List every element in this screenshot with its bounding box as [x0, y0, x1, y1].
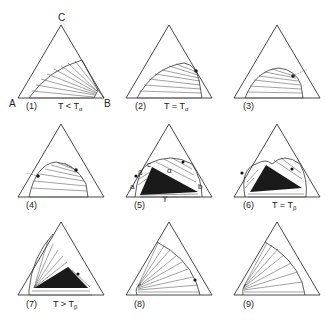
panel-8-diagram — [126, 222, 212, 295]
panel-8-label: (8) — [134, 299, 145, 309]
panel-5-label: (5) — [134, 200, 145, 210]
panel-2-diagram — [126, 25, 212, 98]
panel-2-condition: T = Tα — [164, 101, 188, 114]
panel-4-label: (4) — [26, 200, 37, 210]
panel-1-condition: T < Tα — [58, 101, 82, 114]
panel-7-label: (7) — [26, 299, 37, 309]
ternary-diagram-grid — [0, 0, 333, 322]
panel-9-label: (9) — [243, 299, 254, 309]
panel-4-diagram — [18, 124, 104, 197]
panel-9-diagram — [234, 222, 320, 295]
panel-7-diagram — [18, 222, 104, 295]
region-label-gamma: γ — [163, 193, 167, 203]
region-label-b: b — [198, 182, 202, 192]
region-label-alpha: α — [167, 166, 172, 176]
panel-6-label: (6) — [243, 200, 254, 210]
panel-1-diagram — [18, 25, 104, 98]
region-label-a: a — [130, 182, 134, 192]
vertex-label-b: B — [104, 99, 111, 109]
panel-1-label: (1) — [26, 101, 37, 111]
panel-6-condition: T = Tβ — [272, 200, 296, 213]
region-label-c: c — [147, 160, 151, 170]
region-label-beta: β — [138, 168, 143, 178]
panel-7-condition: T > Tβ — [53, 299, 77, 312]
vertex-label-a: A — [9, 99, 16, 109]
panel-6-diagram — [234, 124, 320, 197]
panel-2-label: (2) — [135, 101, 146, 111]
panel-3-label: (3) — [243, 101, 254, 111]
panel-3-diagram — [234, 25, 320, 98]
vertex-label-c: C — [58, 13, 65, 23]
